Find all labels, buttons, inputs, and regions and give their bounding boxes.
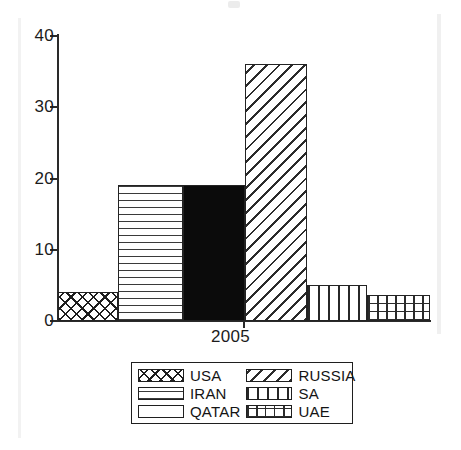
bar-qatar[interactable]: [183, 185, 245, 321]
legend-label-iran: IRAN: [190, 386, 227, 401]
bar-chart-figure: 40 30 20 10 0 2005 USA: [0, 0, 461, 450]
legend-label-usa: USA: [190, 368, 221, 383]
y-tick-label-10-wrap: 10: [22, 241, 54, 258]
legend-label-sa: SA: [298, 386, 318, 401]
legend-item-sa[interactable]: SA: [246, 385, 355, 402]
legend-label-qatar: QATAR: [190, 404, 240, 419]
bar-russia[interactable]: [245, 64, 307, 321]
legend-item-qatar[interactable]: QATAR: [138, 403, 240, 420]
y-tick-label-40-wrap: 40: [22, 27, 54, 44]
legend-item-uae[interactable]: UAE: [246, 403, 355, 420]
legend-label-russia: RUSSIA: [298, 368, 355, 383]
bar-iran[interactable]: [118, 185, 183, 321]
legend-item-iran[interactable]: IRAN: [138, 385, 240, 402]
legend-swatch-iran-icon: [138, 387, 184, 400]
y-tick-label-20-wrap: 20: [22, 170, 54, 187]
legend-grid: USA RUSSIA IRAN SA QATAR UAE: [138, 367, 347, 419]
legend-item-usa[interactable]: USA: [138, 367, 240, 384]
y-tick-label-30: 30: [24, 98, 54, 115]
legend-swatch-sa-icon: [246, 387, 292, 400]
legend-swatch-russia-icon: [246, 369, 292, 382]
legend-swatch-qatar-icon: [138, 405, 184, 418]
legend-item-russia[interactable]: RUSSIA: [246, 367, 355, 384]
y-tick-label-10: 10: [24, 241, 54, 258]
x-axis-label: 2005: [0, 327, 461, 347]
legend-label-uae: UAE: [298, 404, 329, 419]
bar-usa[interactable]: [58, 292, 118, 321]
legend: USA RUSSIA IRAN SA QATAR UAE: [131, 362, 353, 424]
bar-sa[interactable]: [307, 285, 367, 321]
y-tick-label-40: 40: [24, 27, 54, 44]
y-tick-label-20: 20: [24, 170, 54, 187]
y-tick-label-30-wrap: 30: [22, 98, 54, 115]
bar-uae[interactable]: [367, 295, 430, 322]
legend-swatch-usa-icon: [138, 369, 184, 382]
legend-swatch-uae-icon: [246, 405, 292, 418]
